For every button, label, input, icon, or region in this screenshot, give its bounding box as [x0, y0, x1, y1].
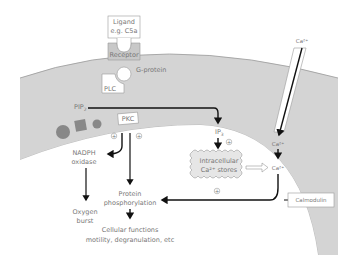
ca-cytosolic-label-2: Ca²⁺	[272, 165, 284, 171]
ca-extracellular-label: Ca²⁺	[296, 38, 308, 44]
ligand-box: Ligand e.g. C5a	[108, 16, 140, 38]
plc-label: PLC	[104, 85, 117, 93]
stores-label-line1: Intracellular	[199, 157, 238, 165]
phosphorylation-label: phosphorylation	[104, 199, 157, 207]
stores-label-line2: Ca²⁺ stores	[201, 166, 238, 174]
g-protein-icon	[117, 67, 131, 81]
receptor: Receptor	[108, 38, 140, 60]
protein-label: Protein	[119, 190, 142, 198]
cellular-functions-detail-label: motility, degranulation, etc	[86, 236, 175, 244]
nadph-label: NADPH	[72, 149, 95, 157]
cellular-functions-label: Cellular functions	[102, 226, 159, 234]
ligand-example-label: e.g. C5a	[111, 27, 138, 35]
receptor-label: Receptor	[109, 51, 138, 59]
oxidase-label: oxidase	[72, 158, 97, 166]
ligand-label: Ligand	[113, 18, 135, 26]
pkc-right-plus-sign: +	[137, 133, 142, 139]
nadph-subunit-square-icon	[74, 119, 87, 132]
ca-cytosolic-label-1: Ca²⁺	[272, 141, 284, 147]
calmodulin-label: Calmodulin	[296, 197, 327, 203]
pkc-label: PKC	[122, 115, 135, 123]
pathway-diagram: Ligand e.g. C5a Receptor G-protein PLC P…	[0, 0, 351, 255]
burst-label: burst	[77, 217, 94, 225]
ca-plus-sign: +	[215, 188, 220, 194]
nadph-subunit-small-icon	[93, 120, 102, 129]
ip3-plus-sign: +	[227, 139, 232, 145]
g-protein-label: G-protein	[136, 66, 167, 74]
nadph-subunit-large-icon	[56, 125, 70, 139]
oxygen-label: Oxygen	[72, 208, 97, 216]
pkc-left-plus-sign: +	[112, 133, 117, 139]
